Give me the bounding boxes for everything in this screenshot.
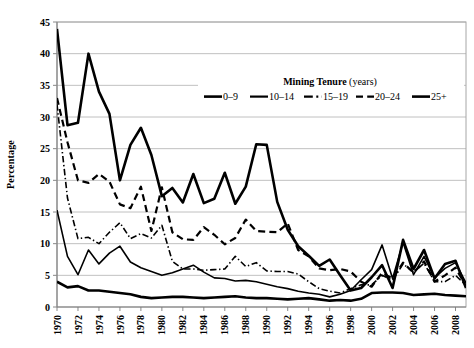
y-axis-tick-label: 20: [40, 175, 50, 186]
x-axis-tick-label: 1976: [115, 315, 126, 335]
line-chart: 0510152025303540451970197219741976197819…: [0, 0, 474, 348]
legend-label-10-14[interactable]: 10–14: [269, 91, 294, 102]
legend-title-suffix: (years): [349, 76, 377, 88]
x-axis-tick-label: 1972: [73, 315, 84, 335]
y-axis-title: Percentage: [5, 140, 16, 189]
x-axis-tick-label: 1978: [135, 315, 146, 335]
chart-container: 0510152025303540451970197219741976197819…: [0, 0, 474, 348]
y-axis-tick-label: 25: [40, 143, 50, 154]
legend-title-main: Mining Tenure: [283, 76, 349, 87]
x-axis-tick-label: 2006: [429, 315, 440, 335]
legend-label-15-19[interactable]: 15–19: [323, 91, 348, 102]
x-axis-tick-label: 1974: [94, 315, 105, 335]
y-axis-tick-label: 40: [40, 48, 50, 59]
legend: Mining Tenure (years)0–910–1415–1920–242…: [198, 74, 464, 107]
x-axis-tick-label: 1984: [198, 315, 209, 335]
x-axis-tick-label: 2004: [408, 315, 419, 335]
legend-label-0-9[interactable]: 0–9: [223, 91, 238, 102]
x-axis-tick-label: 2002: [387, 315, 398, 335]
x-axis-tick-label: 1994: [303, 315, 314, 335]
x-axis-tick-label: 1992: [282, 315, 293, 335]
legend-title: Mining Tenure (years): [283, 76, 377, 88]
x-axis-tick-label: 2000: [366, 315, 377, 335]
y-axis-tick-label: 10: [40, 238, 50, 249]
x-axis-tick-label: 2008: [450, 315, 461, 335]
x-axis-tick-label: 1998: [345, 315, 356, 335]
x-axis-tick-label: 1980: [156, 315, 167, 335]
x-axis-tick-label: 1996: [324, 315, 335, 335]
legend-label-25-[interactable]: 25+: [431, 91, 447, 102]
y-axis-ticks: 051015202530354045: [40, 17, 50, 313]
y-axis-tick-label: 35: [40, 80, 50, 91]
x-axis-tick-label: 1986: [219, 315, 230, 335]
y-axis-tick-label: 5: [45, 270, 50, 281]
y-axis-tick-label: 30: [40, 112, 50, 123]
x-axis-tick-label: 1970: [52, 315, 63, 335]
x-axis-tick-label: 1988: [240, 315, 251, 335]
x-axis-tick-label: 1982: [177, 315, 188, 335]
y-axis-tick-label: 15: [40, 207, 50, 218]
x-axis-ticks: 1970197219741976197819801982198419861988…: [52, 307, 462, 335]
x-axis-tick-label: 1990: [261, 315, 272, 335]
y-axis-tick-label: 0: [45, 302, 50, 313]
y-axis-tick-label: 45: [40, 17, 50, 28]
legend-label-20-24[interactable]: 20–24: [375, 91, 400, 102]
